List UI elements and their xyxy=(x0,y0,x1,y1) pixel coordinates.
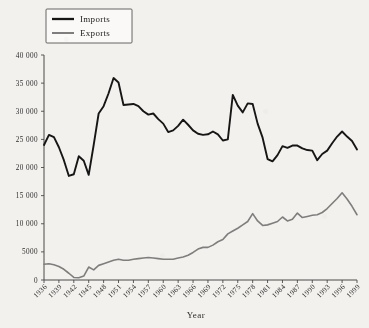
y-tick-label: 0 xyxy=(34,277,38,285)
y-tick-label: 25 000 xyxy=(16,136,38,144)
y-tick-label: 5000 xyxy=(22,248,38,256)
y-tick-label: 20 000 xyxy=(16,164,38,172)
y-tick-label: 35 000 xyxy=(16,80,38,88)
y-tick-label: 10 000 xyxy=(16,220,38,228)
line-chart: 0500010 00015 00020 00025 00030 00035 00… xyxy=(0,0,369,328)
chart-container: 0500010 00015 00020 00025 00030 00035 00… xyxy=(0,0,369,328)
y-tick-label: 40 000 xyxy=(16,52,38,60)
legend-label-imports: Imports xyxy=(80,14,110,24)
chart-background xyxy=(0,0,369,328)
y-tick-label: 15 000 xyxy=(16,192,38,200)
legend-label-exports: Exports xyxy=(80,28,110,38)
y-tick-label: 30 000 xyxy=(16,108,38,116)
legend: Imports Exports xyxy=(46,9,132,43)
x-axis-title: Year xyxy=(187,310,206,320)
